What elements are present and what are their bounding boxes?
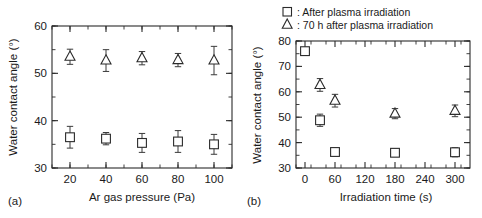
panel-label-a: (a) <box>8 195 22 207</box>
data-point-triangle-marker-icon <box>101 55 111 64</box>
x-tick-label: 20 <box>64 173 77 185</box>
panel-b-svg: : After plasma irradiation : 70 h after … <box>241 0 482 218</box>
y-tick-label: 50 <box>278 111 291 123</box>
data-point-square-marker-icon <box>331 148 340 157</box>
legend-entry-0-label: : After plasma irradiation <box>297 6 410 18</box>
data-point-square-marker-icon <box>66 133 75 142</box>
data-point-triangle-marker-icon <box>173 54 183 63</box>
legend-triangle-marker-icon <box>282 19 292 28</box>
plot-frame <box>296 41 470 168</box>
data-point-square-marker-icon <box>102 134 111 143</box>
data-point-triangle-marker-icon <box>65 51 75 60</box>
panel-a-svg: 2040608010030405060 Ar gas pressure (Pa)… <box>0 0 241 218</box>
y-tick-label: 60 <box>278 86 291 98</box>
x-tick-label: 60 <box>136 173 149 185</box>
x-tick-label: 300 <box>445 173 464 185</box>
x-tick-label: 100 <box>204 173 223 185</box>
data-point-triangle-marker-icon <box>390 108 400 117</box>
figure-container: 2040608010030405060 Ar gas pressure (Pa)… <box>0 0 482 218</box>
x-tick-label: 240 <box>415 173 434 185</box>
data-point-square-marker-icon <box>451 148 460 157</box>
data-point-square-marker-icon <box>174 137 183 146</box>
chart-panel-b: : After plasma irradiation : 70 h after … <box>241 0 482 218</box>
data-point-triangle-marker-icon <box>315 79 325 88</box>
panel-label-b: (b) <box>247 195 261 207</box>
data-point-square-marker-icon <box>301 47 310 56</box>
y-tick-label: 80 <box>278 35 291 47</box>
data-point-triangle-marker-icon <box>137 52 147 61</box>
y-axis-title: Water contact angle (°) <box>251 46 263 163</box>
data-point-square-marker-icon <box>316 116 325 125</box>
x-tick-label: 180 <box>385 173 404 185</box>
legend-entry-1-label: : 70 h after plasma irradiation <box>297 19 433 31</box>
x-tick-label: 0 <box>302 173 308 185</box>
data-point-triangle-marker-icon <box>450 105 460 114</box>
x-tick-label: 40 <box>100 173 113 185</box>
y-tick-label: 30 <box>34 162 47 174</box>
y-tick-label: 50 <box>34 67 47 79</box>
y-tick-label: 30 <box>278 162 291 174</box>
y-tick-label: 40 <box>278 137 291 149</box>
x-tick-label: 120 <box>355 173 374 185</box>
y-tick-label: 70 <box>278 60 291 72</box>
data-point-triangle-marker-icon <box>209 55 219 64</box>
x-tick-label: 60 <box>329 173 342 185</box>
data-point-square-marker-icon <box>210 140 219 149</box>
chart-panel-a: 2040608010030405060 Ar gas pressure (Pa)… <box>0 0 241 218</box>
data-point-square-marker-icon <box>138 139 147 148</box>
legend-square-marker-icon <box>283 8 292 17</box>
y-tick-label: 60 <box>34 20 47 32</box>
y-tick-label: 40 <box>34 115 47 127</box>
legend: : After plasma irradiation : 70 h after … <box>282 6 433 31</box>
y-axis-title: Water contact angle (°) <box>7 38 19 155</box>
x-axis-title: Ar gas pressure (Pa) <box>89 191 195 203</box>
x-tick-label: 80 <box>172 173 185 185</box>
data-point-square-marker-icon <box>391 148 400 157</box>
x-axis-title: Irradiation time (s) <box>340 191 433 203</box>
data-point-triangle-marker-icon <box>330 95 340 104</box>
